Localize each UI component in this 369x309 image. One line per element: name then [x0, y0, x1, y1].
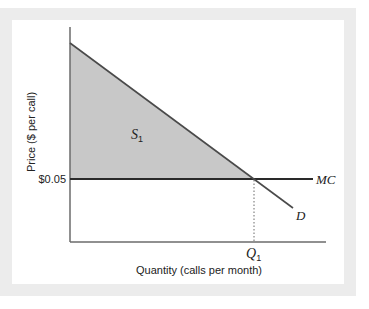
q1-label-sub: 1 — [256, 253, 261, 263]
q1-label: Q1 — [246, 246, 261, 263]
surplus-label-sub: 1 — [138, 134, 143, 144]
q1-label-main: Q — [246, 246, 256, 261]
y-axis-label: Price ($ per call) — [25, 92, 37, 172]
x-axis-label: Quantity (calls per month) — [136, 264, 262, 276]
mc-label: MC — [315, 172, 336, 187]
surplus-diagram: Price ($ per call) $0.05 S1 MC D Q1 Quan… — [0, 0, 369, 309]
price-tick-label: $0.05 — [38, 173, 66, 185]
surplus-label-main: S — [131, 127, 138, 142]
demand-label: D — [295, 208, 306, 223]
